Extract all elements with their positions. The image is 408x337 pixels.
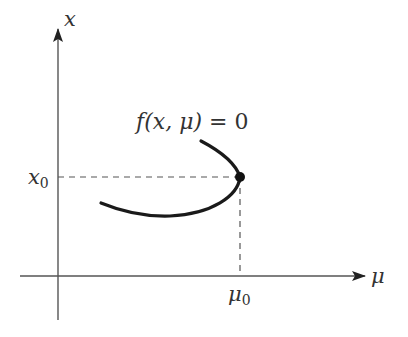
x0-tick-label: x0 <box>28 165 49 191</box>
curve-equation-label: f(x, μ) = 0 <box>134 109 248 134</box>
mu0-base: μ <box>228 282 242 306</box>
x0-subscript: 0 <box>40 175 49 191</box>
turning-point-dot <box>235 172 245 182</box>
mu0-tick-label: μ0 <box>228 282 251 308</box>
x0-base: x <box>28 165 40 189</box>
horizontal-axis-label: μ <box>371 264 385 288</box>
bifurcation-diagram: x μ x0 μ0 f(x, μ) = 0 <box>0 0 408 337</box>
vertical-axis-label: x <box>64 7 76 31</box>
equation-rhs: = 0 <box>202 109 248 134</box>
fold-curve <box>101 141 240 216</box>
mu0-subscript: 0 <box>242 292 251 308</box>
equation-arguments: (x, μ) <box>144 109 202 134</box>
